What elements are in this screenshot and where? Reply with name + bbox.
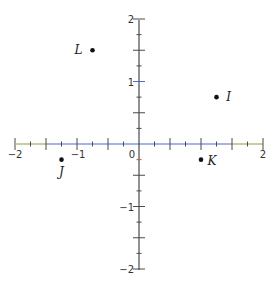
point-marker: [90, 48, 95, 53]
point-label: K: [207, 154, 218, 168]
point-l: L: [74, 43, 95, 57]
coordinate-plane: −2−102 21−1−2 LIJK: [0, 0, 279, 287]
y-tick-label: −1: [119, 202, 134, 213]
point-marker: [199, 157, 204, 162]
point-label: L: [74, 43, 83, 57]
point-i: I: [214, 90, 231, 104]
point-marker: [59, 157, 64, 162]
point-label: J: [56, 165, 65, 179]
point-k: K: [199, 154, 218, 168]
x-tick-label: −2: [8, 149, 23, 160]
point-label: I: [225, 90, 231, 104]
y-tick-label: 1: [128, 77, 134, 88]
point-j: J: [56, 157, 65, 178]
y-tick-label: −2: [119, 264, 134, 275]
x-tick-label: 2: [260, 149, 266, 160]
x-tick-label: −1: [71, 149, 86, 160]
x-tick-label: 0: [129, 149, 135, 160]
point-marker: [214, 95, 219, 100]
y-tick-label: 2: [128, 14, 134, 25]
x-axis-tick-labels: −2−102: [8, 149, 267, 160]
